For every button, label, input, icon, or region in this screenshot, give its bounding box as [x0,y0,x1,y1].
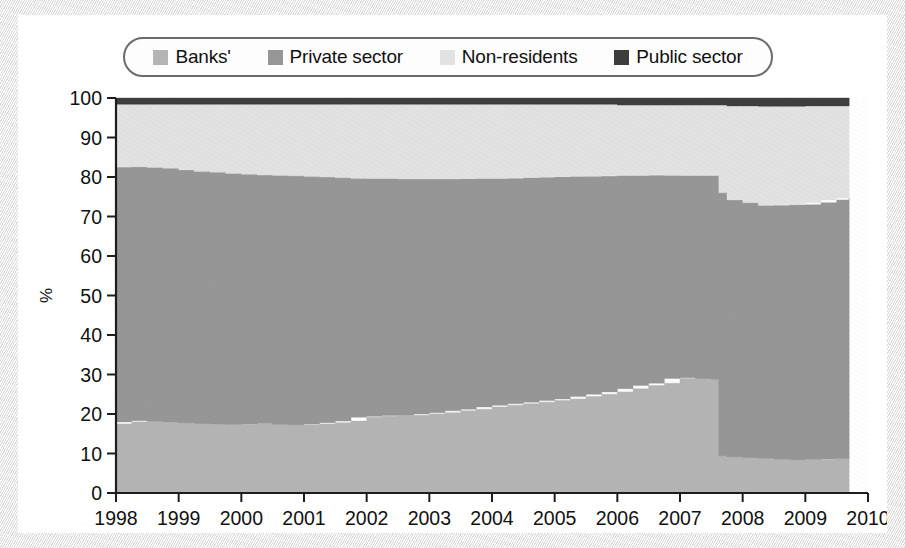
x-tick-label: 2003 [408,507,451,529]
stacked-area-chart: 0102030405060708090100 19981999200020012… [18,15,887,533]
x-tick-label: 2004 [470,507,514,529]
x-tick-label: 2002 [345,507,388,529]
y-tick-label: 50 [80,285,102,307]
y-tick-label: 100 [69,87,102,109]
y-tick-label: 60 [80,245,102,267]
x-tick-label: 1999 [157,507,200,529]
y-tick-label: 40 [80,324,102,346]
x-tick-label: 2006 [596,507,639,529]
x-tick-label: 2009 [784,507,827,529]
scan-texture-overlay [116,98,868,493]
y-axis-ticks: 0102030405060708090100 [69,87,116,504]
x-axis-ticks: 1998199920002001200220032004200520062007… [94,493,887,529]
clipped-header-text [0,0,905,15]
chart-plot-area: 0102030405060708090100 19981999200020012… [18,15,887,533]
y-tick-label: 70 [80,206,102,228]
x-tick-label: 2007 [658,507,701,529]
x-tick-label: 2000 [220,507,264,529]
x-tick-label: 2005 [533,507,577,529]
figure-page: Banks' Private sector Non-residents Publ… [0,0,905,548]
x-tick-label: 1998 [94,507,137,529]
x-tick-label: 2008 [721,507,764,529]
y-tick-label: 90 [80,127,102,149]
y-tick-label: 80 [80,166,102,188]
y-tick-label: 10 [80,443,102,465]
y-tick-label: 30 [80,364,102,386]
y-tick-label: 0 [91,482,102,504]
figure-card: Banks' Private sector Non-residents Publ… [18,15,887,533]
y-axis-label: % [37,288,56,303]
y-tick-label: 20 [80,403,102,425]
area-series-group [116,98,868,493]
x-tick-label: 2010 [846,507,887,529]
x-tick-label: 2001 [282,507,325,529]
